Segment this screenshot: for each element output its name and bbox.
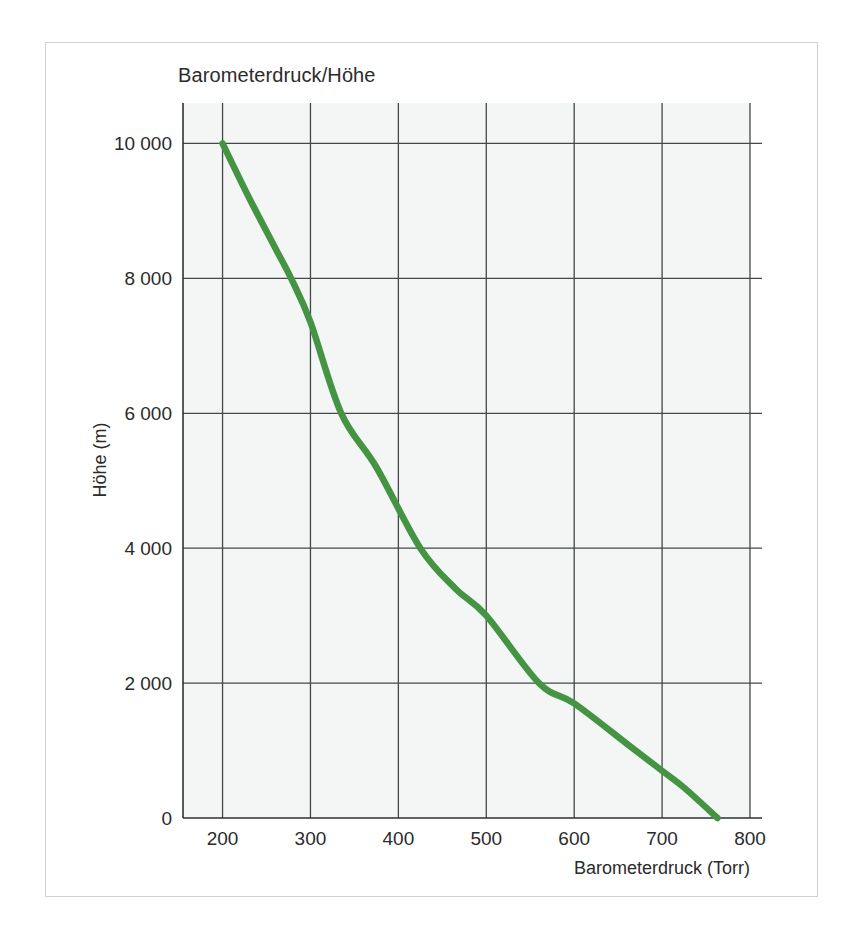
plot-background <box>183 103 750 818</box>
figure-root: Barometerdruck/Höhe 20030040050060070080… <box>0 0 849 942</box>
y-tick-label-2000: 2 000 <box>124 673 172 694</box>
y-tick-label-10000: 10 000 <box>114 133 172 154</box>
y-tick-label-0: 0 <box>161 808 172 829</box>
y-tick-label-4000: 4 000 <box>124 538 172 559</box>
x-tick-labels: 200300400500600700800 <box>207 828 766 849</box>
y-axis-title: Höhe (m) <box>90 422 110 497</box>
y-tick-label-8000: 8 000 <box>124 268 172 289</box>
x-tick-label-300: 300 <box>295 828 327 849</box>
x-tick-label-200: 200 <box>207 828 239 849</box>
x-tick-label-500: 500 <box>470 828 502 849</box>
y-tick-labels: 02 0004 0006 0008 00010 000 <box>114 133 172 829</box>
x-tick-label-700: 700 <box>646 828 678 849</box>
x-axis-title: Barometerdruck (Torr) <box>574 858 750 878</box>
x-tick-label-600: 600 <box>558 828 590 849</box>
chart-plot-area: 200300400500600700800 02 0004 0006 0008 … <box>0 0 849 942</box>
x-tick-label-800: 800 <box>734 828 766 849</box>
y-tick-label-6000: 6 000 <box>124 403 172 424</box>
x-tick-label-400: 400 <box>383 828 415 849</box>
